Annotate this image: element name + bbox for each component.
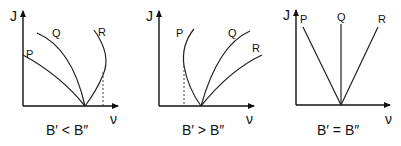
y-axis-label: J	[10, 8, 17, 24]
caption: B′ = B″	[317, 122, 359, 138]
p-branch-curve	[183, 29, 201, 106]
r-branch-line	[341, 27, 378, 105]
caption: B′ > B″	[182, 122, 224, 138]
r-branch-label: R	[252, 42, 260, 54]
fortrat-diagrams: J ν P Q R B′ < B″ J ν P Q R B′ > B″ J ν …	[0, 0, 401, 146]
p-branch-curve	[23, 55, 85, 106]
x-axis-label: ν	[385, 111, 392, 127]
x-axis-label: ν	[110, 111, 117, 127]
panel-b-prime-less: J ν P Q R B′ < B″	[10, 8, 118, 138]
y-axis-label: J	[146, 8, 153, 24]
panel-b-prime-greater: J ν P Q R B′ > B″	[146, 8, 262, 138]
p-branch-label: P	[176, 27, 183, 39]
r-branch-label: R	[378, 13, 386, 25]
q-branch-curve	[201, 31, 250, 106]
r-branch-curve	[85, 30, 106, 106]
r-branch-label: R	[98, 26, 106, 38]
q-branch-curve	[37, 33, 85, 106]
p-branch-label: P	[26, 48, 33, 60]
q-branch-label: Q	[228, 27, 237, 39]
q-branch-label: Q	[337, 11, 346, 23]
y-axis-label: J	[283, 7, 290, 23]
q-branch-label: Q	[52, 27, 61, 39]
panel-b-prime-equal: J ν P Q R B′ = B″	[283, 7, 392, 138]
x-axis-label: ν	[246, 111, 253, 127]
caption: B′ < B″	[46, 122, 88, 138]
p-branch-line	[303, 27, 341, 105]
p-branch-label: P	[300, 13, 307, 25]
